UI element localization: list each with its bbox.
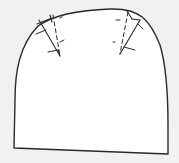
pattern-piece-drawing	[0, 0, 179, 163]
pattern-outline	[14, 9, 168, 154]
pattern-diagram	[0, 0, 179, 163]
